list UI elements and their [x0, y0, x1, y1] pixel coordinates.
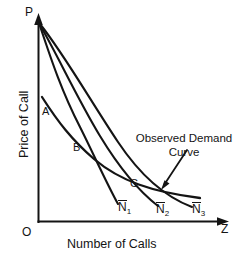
annotation-arrow-icon	[161, 180, 170, 190]
origin-label: O	[22, 226, 31, 238]
x-axis-end-label: Z	[221, 223, 228, 235]
point-label-c: C	[130, 178, 138, 189]
curve-label-n2: N2	[156, 203, 169, 215]
curve-label-n1-base: N	[118, 201, 127, 213]
curve-label-n1: N1	[118, 201, 131, 213]
y-axis-end-label: P	[25, 6, 33, 18]
curve-label-n2-base: N	[156, 203, 165, 215]
curve-label-n3: N3	[192, 203, 205, 215]
curve-label-n2-subscript: 2	[165, 209, 169, 218]
curve-n3	[40, 24, 192, 207]
figure-canvas	[0, 0, 241, 259]
curve-label-n3-base: N	[192, 203, 201, 215]
point-label-b: B	[73, 142, 80, 153]
x-axis-title: Number of Calls	[67, 238, 157, 251]
y-axis-title: Price of Call	[18, 91, 31, 158]
curve-label-n3-subscript: 3	[201, 209, 205, 218]
observed-demand-annotation-line2: Curve	[134, 146, 234, 160]
point-label-a: A	[42, 106, 49, 117]
curve-n1	[40, 26, 118, 204]
observed-demand-annotation: Observed Demand Curve	[134, 132, 234, 159]
curve-n2	[40, 25, 158, 206]
demand-curve-figure: P Z O Price of Call Number of Calls A B …	[0, 0, 241, 259]
observed-demand-annotation-line1: Observed Demand	[134, 132, 234, 146]
y-axis-arrow-icon	[34, 13, 43, 25]
curve-label-n1-subscript: 1	[127, 207, 131, 216]
